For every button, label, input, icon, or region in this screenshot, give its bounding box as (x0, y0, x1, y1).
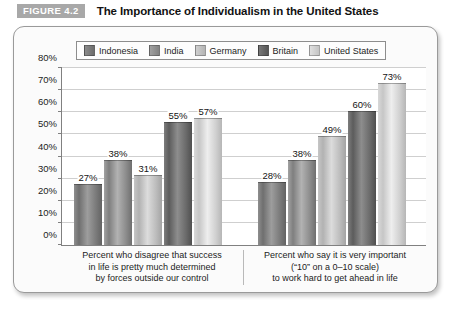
y-tick-mark (58, 89, 62, 90)
x-axis-label-line: (“10” on a 0–10 scale) (248, 262, 422, 274)
y-tick-label: 60% (38, 96, 57, 107)
y-tick-label: 10% (38, 206, 57, 217)
bar-india-group-0[interactable]: 38% (104, 160, 132, 245)
bar-slot: 31% (134, 68, 162, 245)
legend-item-label: India (164, 46, 184, 56)
bar-united-states-group-1[interactable]: 73% (378, 83, 406, 246)
bar-value-label: 55% (167, 110, 188, 121)
bar-slot: 38% (288, 68, 316, 245)
legend-swatch-icon (309, 45, 320, 56)
y-tick-mark (58, 244, 62, 245)
bar-value-label: 57% (197, 106, 218, 117)
page-title: The Importance of Individualism in the U… (97, 5, 379, 17)
bar-india-group-1[interactable]: 38% (288, 160, 316, 245)
x-axis-label-0: Percent who disagree that successin life… (61, 250, 243, 285)
bar-value-label: 31% (137, 163, 158, 174)
x-axis-labels: Percent who disagree that successin life… (61, 250, 426, 285)
bar-slot: 73% (378, 68, 406, 245)
y-tick-label: 30% (38, 162, 57, 173)
legend-swatch-icon (258, 45, 269, 56)
legend-item-label: Britain (273, 46, 299, 56)
y-tick-mark (58, 111, 62, 112)
bar-group-0: 27%38%31%55%57% (74, 68, 222, 245)
y-tick-mark (58, 156, 62, 157)
bar-value-label: 38% (291, 148, 312, 159)
y-tick-label: 80% (38, 52, 57, 63)
x-axis-label-line: Percent who say it is very important (248, 250, 422, 262)
y-tick-mark (58, 200, 62, 201)
bar-slot: 38% (104, 68, 132, 245)
bar-united-states-group-0[interactable]: 57% (194, 118, 222, 245)
x-axis-label-1: Percent who say it is very important(“10… (244, 250, 426, 285)
bar-slot: 55% (164, 68, 192, 245)
bar-value-label: 27% (77, 172, 98, 183)
bar-slot: 60% (348, 68, 376, 245)
y-tick-mark (58, 222, 62, 223)
legend-swatch-icon (195, 45, 206, 56)
bar-value-label: 60% (351, 99, 372, 110)
bar-germany-group-1[interactable]: 49% (318, 136, 346, 245)
bar-germany-group-0[interactable]: 31% (134, 175, 162, 245)
y-tick-mark (58, 133, 62, 134)
legend-item-india[interactable]: India (149, 45, 184, 56)
y-tick-label: 50% (38, 118, 57, 129)
x-axis-label-line: Percent who disagree that success (65, 250, 239, 262)
bar-indonesia-group-1[interactable]: 28% (258, 182, 286, 245)
legend-item-label: United States (324, 46, 378, 56)
legend-item-label: Indonesia (99, 46, 138, 56)
x-axis-label-line: in life is pretty much determined (65, 262, 239, 274)
bar-britain-group-1[interactable]: 60% (348, 111, 376, 245)
bar-value-label: 49% (321, 124, 342, 135)
bar-slot: 57% (194, 68, 222, 245)
bar-indonesia-group-0[interactable]: 27% (74, 184, 102, 245)
x-axis-label-line: to work hard to get ahead in life (248, 273, 422, 285)
y-tick-mark (58, 178, 62, 179)
y-tick-label: 0% (43, 229, 57, 240)
bar-value-label: 38% (107, 148, 128, 159)
legend-item-indonesia[interactable]: Indonesia (84, 45, 138, 56)
bar-slot: 28% (258, 68, 286, 245)
legend-item-label: Germany (210, 46, 247, 56)
bar-britain-group-0[interactable]: 55% (164, 122, 192, 245)
chart-frame: IndonesiaIndiaGermanyBritainUnited State… (13, 26, 438, 293)
legend-item-united-states[interactable]: United States (309, 45, 378, 56)
legend-item-germany[interactable]: Germany (195, 45, 247, 56)
y-tick-label: 70% (38, 74, 57, 85)
bar-slot: 49% (318, 68, 346, 245)
bar-value-label: 28% (261, 170, 282, 181)
figure-number-badge: FIGURE 4.2 (17, 4, 85, 19)
plot-area: 0%10%20%30%40%50%60%70%80% 27%38%31%55%5… (61, 68, 426, 246)
y-tick-label: 40% (38, 140, 57, 151)
chart-legend: IndonesiaIndiaGermanyBritainUnited State… (76, 41, 386, 60)
bar-value-label: 73% (381, 71, 402, 82)
y-tick-mark (58, 67, 62, 68)
legend-swatch-icon (84, 45, 95, 56)
figure-header: FIGURE 4.2 The Importance of Individuali… (0, 0, 456, 22)
x-axis-label-line: by forces outside our control (65, 273, 239, 285)
legend-swatch-icon (149, 45, 160, 56)
bar-group-1: 28%38%49%60%73% (258, 68, 406, 245)
y-tick-label: 20% (38, 184, 57, 195)
legend-item-britain[interactable]: Britain (258, 45, 299, 56)
bar-slot: 27% (74, 68, 102, 245)
